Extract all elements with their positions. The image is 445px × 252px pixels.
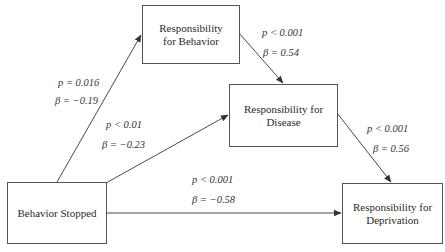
node-label: Responsibility for Behavior	[152, 22, 230, 48]
beta-stopped-to-behavior: β = −0.19	[55, 95, 98, 106]
node-responsibility-for-behavior: Responsibility for Behavior	[142, 5, 240, 64]
node-label: Responsibility for Disease	[239, 103, 329, 129]
p-value-disease-to-deprivation: p < 0.001	[367, 123, 408, 134]
beta-disease-to-deprivation: β = 0.56	[373, 143, 409, 154]
node-label: Responsibility for Deprivation	[348, 201, 438, 227]
beta-behavior-to-disease: β = 0.54	[263, 47, 299, 58]
node-behavior-stopped: Behavior Stopped	[7, 182, 107, 244]
arrow-stopped-to-behavior	[57, 35, 141, 182]
beta-stopped-to-disease: β = −0.23	[102, 139, 145, 150]
p-value-behavior-to-disease: p < 0.001	[262, 27, 303, 38]
p-value-stopped-to-behavior: p = 0.016	[58, 77, 99, 88]
node-label: Behavior Stopped	[17, 207, 96, 220]
p-value-stopped-to-disease: p < 0.01	[106, 119, 142, 130]
p-value-stopped-to-deprivation: p < 0.001	[192, 174, 233, 185]
arrow-behavior-to-disease	[239, 33, 283, 83]
node-responsibility-for-disease: Responsibility for Disease	[229, 84, 338, 147]
beta-stopped-to-deprivation: β = −0.58	[192, 194, 235, 205]
node-responsibility-for-deprivation: Responsibility for Deprivation	[342, 183, 443, 244]
